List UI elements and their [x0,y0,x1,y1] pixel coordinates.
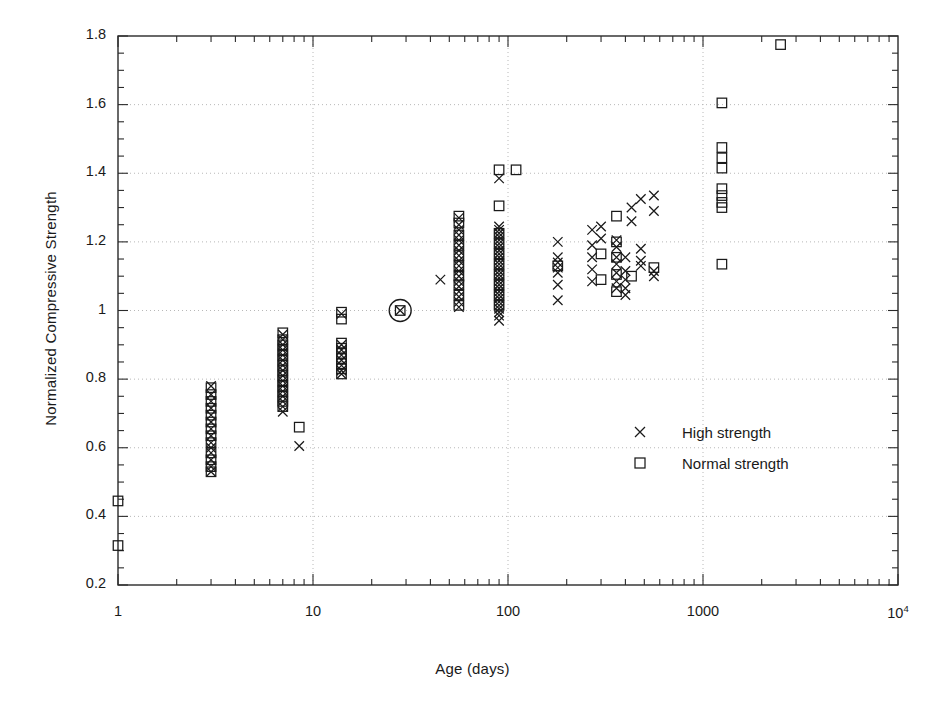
marker-x [206,438,216,448]
marker-x [635,427,645,437]
y-tick-label: 1 [46,301,106,317]
marker-square [612,211,622,221]
marker-x [587,241,597,251]
x-tick-label: 1000 [668,603,738,619]
marker-x [454,297,464,307]
legend-label: High strength [682,424,771,441]
marker-x [294,441,304,451]
y-tick-label: 1.8 [46,26,106,42]
marker-x [612,259,622,269]
legend-label: Normal strength [682,455,789,472]
y-tick-label: 0.8 [46,369,106,385]
marker-square [337,307,347,317]
marker-square [294,422,304,432]
marker-square [635,458,645,468]
marker-x [636,244,646,254]
marker-square [596,275,606,285]
y-tick-label: 1.4 [46,163,106,179]
series-high-strength [206,174,658,477]
marker-x [454,261,464,271]
marker-x [436,275,446,285]
marker-x [395,306,405,316]
marker-x [627,203,637,213]
marker-x [649,266,659,276]
marker-square [612,237,622,247]
marker-square [717,184,727,194]
marker-square [337,314,347,324]
marker-x [587,277,597,287]
y-tick-label: 1.2 [46,232,106,248]
x-tick-label: 1 [83,603,153,619]
marker-square [776,40,786,50]
marker-x [454,251,464,261]
series-normal-strength [113,40,785,550]
marker-square [717,143,727,153]
marker-square [717,191,727,201]
marker-square [494,201,504,211]
marker-x [621,253,631,262]
marker-x [649,191,659,201]
marker-x [454,287,464,297]
marker-x [649,206,659,216]
marker-square [511,165,520,175]
marker-square [717,98,727,108]
x-axis-title: Age (days) [0,660,945,677]
marker-x [553,280,563,290]
marker-x [553,295,563,305]
marker-x [587,253,597,262]
chart-figure: Normalized Compressive Strength Age (day… [0,0,945,719]
marker-x [612,283,622,293]
marker-x [636,256,646,266]
marker-x [454,230,464,240]
y-tick-label: 0.4 [46,506,106,522]
marker-square [717,259,727,269]
marker-x [553,258,563,268]
marker-square [717,163,727,173]
y-tick-label: 0.2 [46,575,106,591]
marker-x [587,225,597,235]
marker-x [553,268,563,278]
marker-x [596,222,606,232]
x-tick-label: 100 [473,603,543,619]
marker-square [454,211,464,221]
marker-x [494,316,504,326]
x-tick-label: 104 [863,603,933,621]
marker-square [596,249,606,259]
marker-x [587,265,597,275]
marker-x [627,217,637,227]
marker-x [596,234,606,244]
y-tick-label: 1.6 [46,95,106,111]
marker-x [636,261,646,271]
marker-x [636,194,646,204]
marker-square [717,153,727,163]
marker-x [621,290,631,300]
marker-x [621,275,631,285]
x-tick-label: 10 [278,603,348,619]
y-tick-label: 0.6 [46,438,106,454]
